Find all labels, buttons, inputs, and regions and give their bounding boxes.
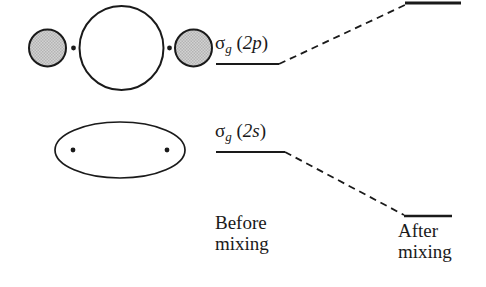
sigma-g-2p-orbital-drawing	[29, 6, 212, 90]
sigma-2s-symbol: σ	[215, 120, 225, 141]
sigma-2s-left-nucleus-dot	[71, 148, 76, 153]
sigma-2p-left-nucleus-dot	[71, 46, 76, 51]
sigma-2p-right-lobe	[175, 30, 212, 67]
after-mixing-caption: After mixing	[398, 220, 452, 263]
sigma-2p-left-lobe	[29, 30, 66, 67]
correlation-line-2s-to-lower	[285, 152, 404, 215]
sigma-2p-orbital-text: 2p	[243, 32, 262, 53]
after-mixing-line1: After	[398, 220, 438, 241]
after-mixing-line2: mixing	[398, 241, 452, 262]
sigma-g-2s-orbital-drawing	[55, 122, 185, 178]
correlation-line-2p-to-upper	[279, 5, 405, 64]
sigma-2s-orbital-text: 2s	[243, 120, 260, 141]
sigma-2p-center-lobe	[80, 6, 164, 90]
orbital-mixing-figure: σg (2p) σg (2s) Before mixing After mixi…	[0, 0, 486, 287]
sigma-g-2s-level-label: σg (2s)	[215, 121, 266, 143]
sigma-2s-right-nucleus-dot	[165, 148, 170, 153]
sigma-g-2p-level-label: σg (2p)	[215, 33, 268, 55]
sigma-2p-symbol: σ	[215, 32, 225, 53]
sigma-2p-close-paren: )	[262, 32, 268, 53]
sigma-2s-open-paren: (	[232, 120, 243, 141]
before-mixing-line1: Before	[215, 212, 267, 233]
sigma-2s-close-paren: )	[260, 120, 266, 141]
sigma-2p-right-nucleus-dot	[167, 46, 172, 51]
before-mixing-caption: Before mixing	[215, 212, 269, 255]
sigma-2p-open-paren: (	[232, 32, 243, 53]
before-mixing-line2: mixing	[215, 233, 269, 254]
